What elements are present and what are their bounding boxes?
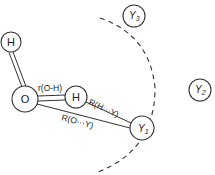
neighbor-y1: Y1 — [130, 116, 154, 140]
atom-h-top-label: H — [7, 36, 15, 48]
neighbor-y3: Y3 — [123, 5, 145, 27]
neighbor-y2: Y2 — [189, 79, 211, 101]
label-r-oy: R(O···Y) — [60, 112, 94, 130]
atom-h-right: H — [65, 86, 87, 108]
hydrogen-bond-diagram: H O H Y1 Y2 Y3 r(O-H) R(H···Y) R(O···Y) — [0, 0, 215, 175]
bond-h-o-top — [9, 52, 26, 87]
cutoff-sphere-arc — [98, 18, 155, 172]
label-r-oh: r(O-H) — [38, 83, 62, 93]
bond-o-h-right — [38, 95, 65, 101]
label-r-hy: R(H···Y) — [87, 97, 120, 120]
atom-o: O — [12, 86, 38, 112]
atom-o-label: O — [21, 93, 30, 105]
atom-h-top: H — [1, 32, 21, 52]
atom-h-right-label: H — [72, 91, 80, 103]
